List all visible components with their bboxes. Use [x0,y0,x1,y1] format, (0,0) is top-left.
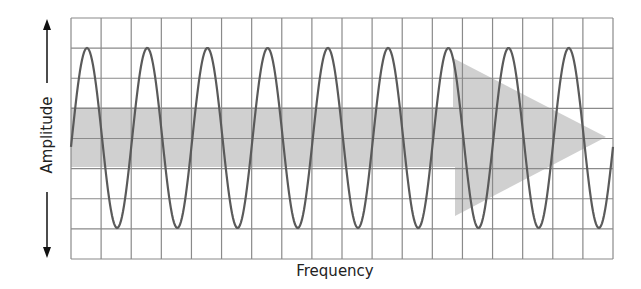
frequency-amplitude-diagram [0,0,641,289]
y-axis-label: Amplitude [38,83,56,187]
arrow-up-icon [43,19,51,30]
x-axis-label: Frequency [250,262,420,280]
direction-arrow [71,58,606,216]
arrow-down-icon [43,247,51,258]
